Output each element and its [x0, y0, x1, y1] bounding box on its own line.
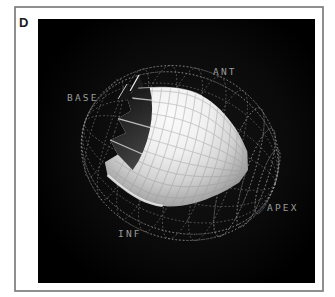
- label-apex: APEX: [267, 202, 299, 213]
- label-ant: ANT: [213, 66, 237, 77]
- panel-label: D: [19, 15, 28, 30]
- heart-3d-figure: D BASE ANT APEX INF: [0, 0, 335, 297]
- label-base: BASE: [67, 92, 99, 103]
- label-inf: INF: [118, 228, 142, 239]
- figure-page: D BASE ANT APEX INF: [0, 0, 335, 297]
